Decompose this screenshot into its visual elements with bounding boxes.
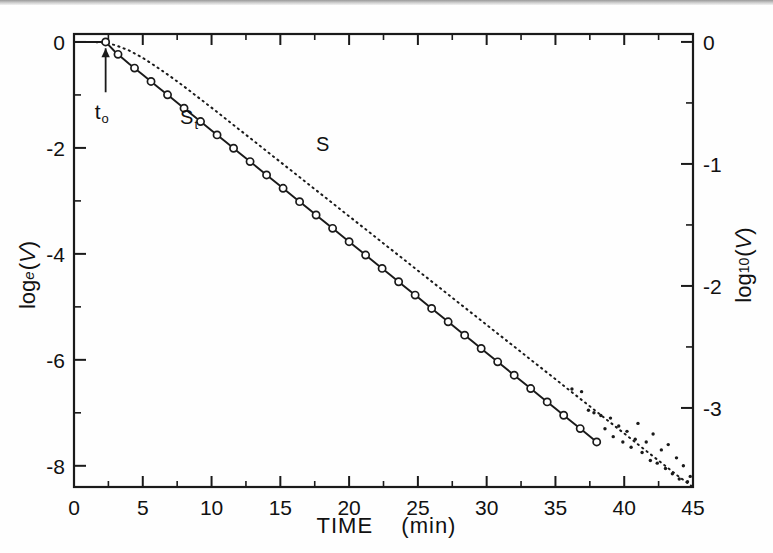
data-point-marker [279, 185, 286, 192]
scatter-point [617, 424, 620, 427]
x-axis-title: TIME (min) [0, 513, 773, 539]
data-point-marker [147, 78, 154, 85]
y-left-tick-label: -2 [46, 137, 65, 160]
x-axis-title-unit: (min) [401, 513, 456, 538]
series-label-st: St [180, 106, 198, 132]
y-left-label-sub: e [20, 271, 37, 279]
data-point-marker [379, 265, 386, 272]
data-point-marker [213, 131, 220, 138]
scatter-point [675, 456, 678, 459]
scatter-point [686, 480, 689, 483]
scatter-point [634, 438, 637, 441]
scatter-point [689, 475, 692, 478]
data-point-marker [131, 65, 138, 72]
data-point-marker [593, 438, 600, 445]
data-point-marker [544, 398, 551, 405]
y-left-tick-label: 0 [53, 31, 65, 54]
scatter-point [636, 422, 639, 425]
data-point-marker [197, 118, 204, 125]
data-series [74, 38, 693, 487]
y-left-label-base: log [15, 280, 41, 309]
data-point-marker [346, 238, 353, 245]
y-left-tick-label: -4 [46, 243, 65, 266]
data-point-marker [312, 211, 319, 218]
t0-label: to [95, 100, 109, 126]
y-left-tick-label: -6 [46, 349, 65, 372]
scatter-point [667, 443, 670, 446]
data-point-marker [412, 291, 419, 298]
data-point-marker [395, 278, 402, 285]
y-left-label-arg: (V) [15, 241, 41, 270]
axis-tick-labels: 0510152025303540450-2-4-6-80-1-2-3 [46, 31, 721, 519]
y-left-tick-label: -8 [46, 455, 65, 478]
scatter-point [671, 472, 674, 475]
data-point-marker [114, 51, 121, 58]
series-line-st [74, 42, 597, 442]
data-point-marker [445, 318, 452, 325]
data-point-marker [494, 358, 501, 365]
data-point-marker [230, 145, 237, 152]
data-point-marker [329, 225, 336, 232]
data-point-marker [560, 412, 567, 419]
scatter-point [629, 446, 632, 449]
scatter-point [656, 461, 659, 464]
scatter-point [640, 451, 643, 454]
data-point-marker [511, 372, 518, 379]
scatter-point [664, 467, 667, 470]
scatter-point [660, 448, 663, 451]
data-point-marker [527, 385, 534, 392]
y-right-tick-label: -3 [703, 397, 722, 420]
scatter-point [649, 459, 652, 462]
up-arrow-icon [101, 48, 109, 57]
chart-canvas: 0510152025303540450-2-4-6-80-1-2-3 toStS [0, 0, 773, 553]
y-axis-right-title: log10(V) [722, 175, 766, 355]
y-right-tick-label: 0 [703, 31, 715, 54]
y-right-label-arg: (V) [731, 227, 757, 256]
data-point-marker [362, 251, 369, 258]
scatter-point [645, 440, 648, 443]
data-point-marker [461, 332, 468, 339]
scatter-point [621, 440, 624, 443]
y-right-label-sub: 10 [736, 258, 752, 274]
plot-frame [74, 34, 693, 487]
scatter-point [603, 427, 606, 430]
y-axis-left-title: loge(V) [8, 190, 48, 360]
data-point-marker [263, 171, 270, 178]
scatter-point [651, 432, 654, 435]
data-point-marker [478, 345, 485, 352]
scatter-point [682, 464, 685, 467]
scatter-point [570, 387, 573, 390]
scatter-point [609, 416, 612, 419]
series-label-s: S [316, 133, 329, 155]
axis-ticks [74, 34, 693, 487]
scatter-point [580, 390, 583, 393]
scatter-point [625, 430, 628, 433]
x-axis-title-main: TIME [317, 513, 374, 538]
data-point-marker [102, 38, 109, 45]
scatter-point [587, 408, 590, 411]
data-point-marker [428, 305, 435, 312]
figure-root: 0510152025303540450-2-4-6-80-1-2-3 toStS… [0, 0, 773, 553]
data-point-marker [164, 91, 171, 98]
scatter-point [592, 411, 595, 414]
y-right-tick-label: -2 [703, 275, 722, 298]
scatter-point [612, 435, 615, 438]
data-point-marker [296, 198, 303, 205]
y-right-label-base: log [731, 273, 757, 302]
y-right-tick-label: -1 [703, 153, 722, 176]
data-point-marker [246, 158, 253, 165]
scatter-point [678, 477, 681, 480]
data-point-marker [577, 425, 584, 432]
scatter-point [599, 414, 602, 417]
